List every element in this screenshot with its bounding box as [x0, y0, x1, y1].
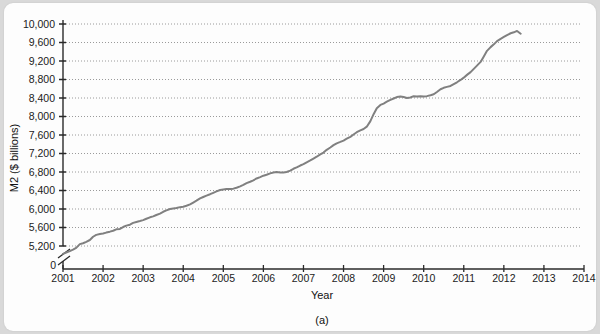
y-axis-tick-label: 10,000 — [23, 18, 55, 30]
x-axis-tick-label: 2010 — [412, 272, 436, 284]
x-axis-tick-label: 2009 — [372, 272, 396, 284]
x-axis-tick-label: 2008 — [332, 272, 356, 284]
y-axis-tick-label: 5,600 — [29, 221, 55, 233]
y-axis-tick-label: 9,200 — [29, 55, 55, 67]
y-axis-tick-labels: 5,2005,6006,0006,4006,8007,2007,6008,000… — [23, 18, 55, 252]
y-axis-tick-label: 8,000 — [29, 110, 55, 122]
x-axis-tick-label: 2006 — [252, 272, 276, 284]
panel-caption: (a) — [315, 314, 328, 326]
x-axis-tick-label: 2007 — [292, 272, 316, 284]
x-axis-tick-label: 2002 — [91, 272, 115, 284]
x-axis-tick-label: 2003 — [131, 272, 155, 284]
y-axis-tick-label: 6,000 — [29, 203, 55, 215]
x-axis-title: Year — [311, 289, 334, 301]
y-axis-tick-label: 8,800 — [29, 73, 55, 85]
y-axis-tick-label: 7,200 — [29, 147, 55, 159]
x-axis-tick-label: 2013 — [532, 272, 556, 284]
y-axis-zero-label: 0 — [50, 259, 56, 271]
y-axis-tick-label: 9,600 — [29, 36, 55, 48]
y-axis-tick-label: 5,200 — [29, 240, 55, 252]
y-axis-tick-label: 8,400 — [29, 92, 55, 104]
x-axis-tick-label: 2005 — [212, 272, 236, 284]
y-axis-tick-label: 6,800 — [29, 166, 55, 178]
x-axis-tick-label: 2004 — [172, 272, 196, 284]
y-axis-tick-label: 7,600 — [29, 129, 55, 141]
x-axis-tick-label: 2012 — [492, 272, 516, 284]
m2-data-line — [63, 31, 521, 254]
x-axis-tick-labels: 2001200220032004200520062007200820092010… — [51, 272, 596, 284]
x-axis-tick-label: 2001 — [51, 272, 75, 284]
x-axis-tick-label: 2014 — [572, 272, 596, 284]
y-axis-tick-label: 6,400 — [29, 184, 55, 196]
grid-lines — [63, 24, 582, 246]
x-axis-tick-label: 2011 — [452, 272, 475, 284]
y-axis-title: M2 ($ billions) — [8, 124, 20, 192]
figure-card: 5,2005,6006,0006,4006,8007,2007,6008,000… — [4, 3, 596, 331]
m2-line-chart: 5,2005,6006,0006,4006,8007,2007,6008,000… — [4, 3, 596, 331]
